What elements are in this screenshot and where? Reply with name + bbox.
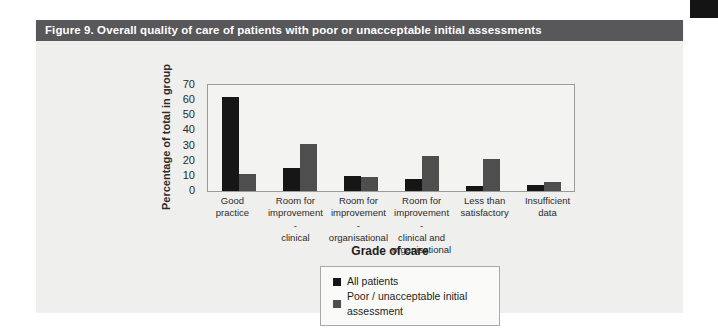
bar — [361, 177, 378, 191]
bar — [222, 97, 239, 191]
figure-title-bar: Figure 9. Overall quality of care of pat… — [36, 20, 683, 41]
document-page: { "page": { "header_title": "Figure 9. O… — [0, 0, 718, 333]
bar — [527, 185, 544, 191]
x-axis-title: Grade of care — [207, 244, 573, 258]
y-tick-label: 40 — [183, 123, 195, 135]
bar — [283, 168, 300, 191]
y-tick-label: 30 — [183, 139, 195, 151]
figure-panel: Percentage of total in group 01020304050… — [36, 41, 683, 313]
bar-group — [452, 85, 513, 191]
bar-group — [269, 85, 330, 191]
bar — [300, 144, 317, 191]
figure-title: Figure 9. Overall quality of care of pat… — [45, 24, 542, 36]
bar — [405, 179, 422, 191]
y-tick-label: 0 — [189, 184, 195, 196]
chart-legend: All patientsPoor / unacceptable initial … — [320, 266, 500, 326]
bar — [466, 186, 483, 191]
bar-groups — [208, 85, 574, 191]
y-axis-ticks: 010203040506070 — [36, 84, 202, 190]
bar-group — [330, 85, 391, 191]
legend-swatch-icon — [333, 278, 341, 286]
bar-group — [391, 85, 452, 191]
bar — [239, 174, 256, 191]
legend-swatch-icon — [333, 300, 341, 308]
y-tick-label: 60 — [183, 93, 195, 105]
legend-label: Poor / unacceptable initial assessment — [347, 289, 489, 319]
bar — [483, 159, 500, 191]
legend-item: Poor / unacceptable initial assessment — [333, 289, 489, 319]
bar-group — [208, 85, 269, 191]
bar — [344, 176, 361, 191]
legend-item: All patients — [333, 274, 489, 289]
bar — [544, 182, 561, 191]
bar — [422, 156, 439, 191]
y-tick-label: 50 — [183, 108, 195, 120]
bar-group — [513, 85, 574, 191]
page-corner-tab — [690, 0, 718, 18]
y-tick-label: 10 — [183, 169, 195, 181]
y-tick-label: 20 — [183, 154, 195, 166]
plot-area — [207, 84, 575, 192]
legend-label: All patients — [347, 274, 398, 289]
y-tick-label: 70 — [183, 78, 195, 90]
